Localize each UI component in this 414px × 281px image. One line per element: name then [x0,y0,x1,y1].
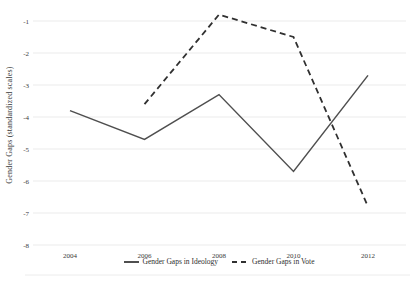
y-tick-label: -3 [23,82,29,90]
y-tick-label: -5 [23,146,29,154]
dashed-line-swatch-icon [232,261,249,263]
gender-gaps-line-chart-figure: Gender Gaps (standardized scales) -1-2-3… [0,0,414,281]
line-chart-plot-area: -1-2-3-4-5-6-7-820042006200820102012 [0,0,414,281]
ideology-series-line [70,75,368,171]
legend-label-ideology: Gender Gaps in Ideology [142,257,218,266]
vote-series-line [145,15,369,207]
solid-line-swatch-icon [124,261,139,263]
y-tick-label: -8 [23,242,29,250]
legend: Gender Gaps in Ideology Gender Gaps in V… [33,257,406,266]
y-tick-label: -7 [23,210,29,218]
legend-item-ideology: Gender Gaps in Ideology [124,257,218,266]
y-tick-label: -2 [23,50,29,58]
legend-label-vote: Gender Gaps in Vote [252,257,314,266]
y-tick-label: -6 [23,178,29,186]
y-tick-label: -4 [23,114,29,122]
legend-item-vote: Gender Gaps in Vote [232,257,314,266]
y-tick-label: -1 [23,18,29,26]
